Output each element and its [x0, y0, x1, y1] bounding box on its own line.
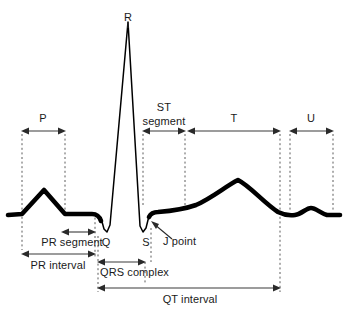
label-pr-interval: PR interval: [31, 259, 86, 271]
measure-arrow-u: [289, 128, 334, 135]
label-qrs-complex: QRS complex: [100, 266, 169, 278]
label-u-wave: U: [307, 112, 315, 124]
measure-arrow-st-segment: [142, 128, 186, 135]
label-r-wave: R: [124, 11, 132, 23]
measure-arrow-p: [21, 128, 66, 135]
label-j-point: J point: [163, 235, 196, 247]
label-s-wave: S: [142, 236, 149, 248]
qrs-spike-trace: [101, 22, 149, 232]
measure-arrow-qt-interval: [97, 285, 281, 292]
label-st-segment-line2: segment: [143, 115, 186, 127]
label-q-wave: Q: [102, 236, 111, 248]
measure-arrow-pr-interval: [21, 251, 96, 258]
measure-arrow-qrs-complex: [97, 259, 146, 266]
ecg-waveform-canvas: [0, 0, 343, 324]
label-st-segment-line1: ST: [157, 101, 171, 113]
label-qt-interval: QT interval: [163, 293, 218, 305]
label-p-wave: P: [39, 112, 46, 124]
label-pr-segment: PR segment: [41, 236, 103, 248]
label-t-wave: T: [231, 112, 238, 124]
measure-arrow-pr-segment: [61, 229, 96, 236]
measure-arrow-t: [187, 128, 281, 135]
ecg-diagram: P R ST segment T U Q S J point PR segmen…: [0, 0, 343, 324]
